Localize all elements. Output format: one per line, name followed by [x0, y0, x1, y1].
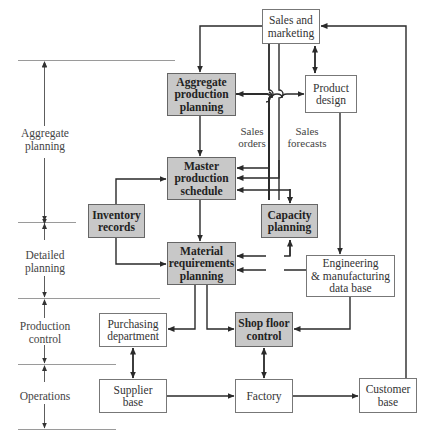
band-label-production-control: Production control [12, 320, 78, 345]
band-label-aggregate-planning: Aggregate planning [14, 127, 76, 152]
node-factory: Factory [235, 379, 293, 413]
flow-label-sales-forecasts: Sales forecasts [282, 125, 332, 149]
node-product-design: Product design [305, 75, 357, 113]
node-purchasing-department: Purchasing department [99, 313, 167, 347]
node-inventory-records: Inventory records [88, 204, 145, 238]
node-customer-base: Customer base [359, 378, 417, 413]
node-supplier-base: Supplier base [99, 379, 167, 413]
node-shop-floor-control: Shop floor control [235, 312, 293, 347]
band-label-detailed-planning: Detailed planning [14, 249, 76, 274]
node-sales-and-marketing: Sales and marketing [262, 9, 320, 44]
band-label-operations: Operations [12, 390, 78, 403]
node-capacity-planning: Capacity planning [261, 204, 318, 238]
node-engineering-manufacturing-database: Engineering & manufacturing data base [306, 255, 395, 297]
node-aggregate-production-planning: Aggregate production planning [167, 73, 236, 116]
node-material-requirements-planning: Material requirements planning [167, 242, 236, 285]
node-master-production-schedule: Master production schedule [167, 157, 236, 200]
flow-label-sales-orders: Sales orders [236, 125, 268, 149]
sales-flow-layer [0, 0, 430, 442]
